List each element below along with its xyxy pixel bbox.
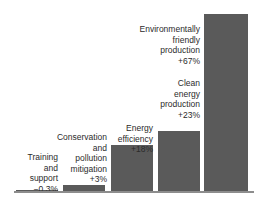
bar-clean-energy-production (158, 131, 200, 191)
bar-label-clean-energy-production: Clean energy production +23% (142, 68, 200, 130)
bar-label-text: Clean energy production (160, 78, 200, 109)
bar-environmentally-friendly-production (204, 14, 248, 191)
bar-chart: Training and support −0.3% Conservation … (0, 0, 263, 204)
bar-value-label: +18% (96, 144, 153, 154)
bar-value-label: +67% (124, 56, 200, 66)
bar-label-text: Environmentally friendly production (140, 24, 200, 55)
plot-area: Training and support −0.3% Conservation … (0, 0, 263, 204)
bar-value-label: +23% (142, 110, 200, 120)
bar-label-environmentally-friendly-production: Environmentally friendly production +67% (124, 14, 200, 76)
axis-baseline (14, 191, 254, 193)
bar-value-label: +3% (45, 174, 107, 184)
